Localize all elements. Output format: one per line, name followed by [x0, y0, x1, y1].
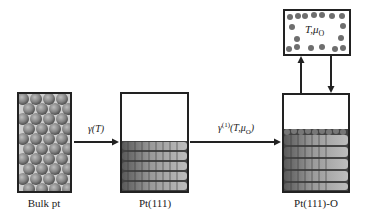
transition-2-label: γ(1)(T,μO)	[218, 121, 254, 136]
arrows-layer	[0, 0, 369, 215]
transition-1-label: γ(T)	[88, 123, 104, 134]
